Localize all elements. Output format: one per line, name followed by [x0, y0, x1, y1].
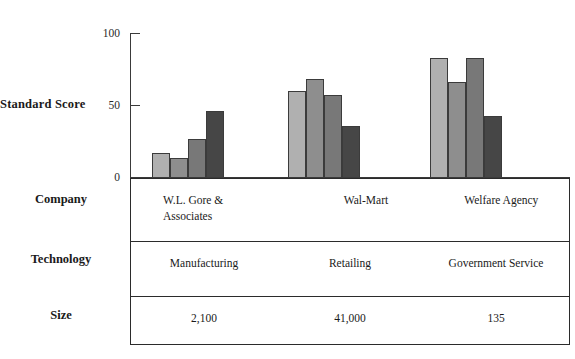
- table-row-technology: Manufacturing Retailing Government Servi…: [131, 241, 569, 296]
- table-cell: 135: [423, 297, 569, 344]
- row-label-company: Company: [0, 192, 122, 207]
- data-table: W.L. Gore &Associates Wal-Mart Welfare A…: [130, 178, 570, 345]
- table-cell: 2,100: [131, 297, 277, 344]
- table-row-company: W.L. Gore &Associates Wal-Mart Welfare A…: [131, 179, 569, 241]
- bar-group: [288, 33, 360, 178]
- bar: [206, 111, 224, 178]
- bar: [306, 79, 324, 178]
- bar: [430, 58, 448, 178]
- bar: [324, 95, 342, 178]
- bar: [188, 139, 206, 178]
- y-tick-label-50: 50: [80, 100, 120, 112]
- bar-group: [152, 33, 224, 178]
- y-tick-label-0: 0: [80, 172, 120, 184]
- bar: [484, 116, 502, 178]
- table-cell: Wal-Mart: [298, 179, 433, 241]
- bar: [152, 153, 170, 178]
- table-cell: Welfare Agency: [434, 179, 569, 241]
- table-cell: 41,000: [277, 297, 423, 344]
- table-cell: Retailing: [277, 242, 423, 296]
- row-label-technology: Technology: [0, 252, 122, 267]
- y-tick-label-100: 100: [80, 28, 120, 40]
- row-label-size: Size: [0, 308, 122, 323]
- table-cell: Government Service: [423, 242, 569, 296]
- table-cell: W.L. Gore &Associates: [131, 179, 298, 241]
- bar: [170, 158, 188, 178]
- table-cell: Manufacturing: [131, 242, 277, 296]
- chart-figure: Standard Score 100 50 0 W.L. Gore &Assoc…: [0, 0, 575, 359]
- bar: [342, 126, 360, 178]
- bar-group: [430, 33, 502, 178]
- bar: [288, 91, 306, 178]
- table-row-size: 2,100 41,000 135: [131, 296, 569, 344]
- bar: [448, 82, 466, 178]
- plot-area: [130, 33, 570, 178]
- bar: [466, 58, 484, 178]
